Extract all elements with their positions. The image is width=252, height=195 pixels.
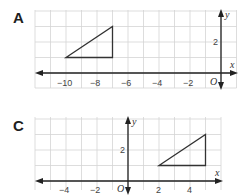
x-tick-c: −4 bbox=[59, 185, 69, 195]
y-axis-label-a: y bbox=[224, 9, 230, 20]
y-axis-arrow-down-c bbox=[125, 187, 131, 195]
x-axis-label-a: x bbox=[229, 59, 235, 70]
diagram-canvas: A bbox=[0, 0, 252, 195]
origin-label-c: O bbox=[117, 183, 124, 194]
x-tick-c: −2 bbox=[90, 185, 100, 195]
panel-label-a: A bbox=[13, 9, 24, 26]
y-tick-c: 2 bbox=[120, 145, 125, 155]
x-tick-a: −10 bbox=[57, 78, 72, 88]
x-axis-label-c: x bbox=[214, 167, 220, 178]
y-axis-arrow-down-a bbox=[218, 82, 224, 90]
grid-a bbox=[35, 10, 237, 88]
y-axis-label-c: y bbox=[131, 116, 137, 127]
origin-label-a: O bbox=[210, 76, 217, 87]
x-axis-arrow-left-c bbox=[35, 178, 43, 184]
x-tick-a: −4 bbox=[152, 78, 162, 88]
x-axis-arrow-right-c bbox=[215, 178, 223, 184]
panel-label-c: C bbox=[13, 117, 24, 134]
y-axis-arrow-up-c bbox=[125, 116, 131, 124]
panel-a: A bbox=[13, 9, 238, 90]
y-axis-arrow-up-a bbox=[218, 9, 224, 17]
x-tick-c: 2 bbox=[156, 185, 161, 195]
x-tick-a: −8 bbox=[90, 78, 100, 88]
y-tick-a: 2 bbox=[213, 37, 218, 47]
x-tick-a: −6 bbox=[121, 78, 131, 88]
x-tick-c: 4 bbox=[187, 185, 192, 195]
x-axis-arrow-left-a bbox=[35, 70, 43, 76]
x-tick-a: −2 bbox=[183, 78, 193, 88]
panel-c: C y x O bbox=[13, 116, 223, 195]
